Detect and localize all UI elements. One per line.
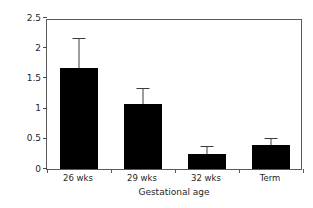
error-bar-line <box>271 139 272 145</box>
error-bar-cap <box>201 146 214 147</box>
x-tick-mark <box>111 169 112 173</box>
plot-area: 00.511.522.5 <box>46 19 302 170</box>
bar <box>188 154 226 169</box>
error-bar-cap <box>73 38 86 39</box>
x-axis-tick-labels: 26 wks29 wks32 wksTerm <box>46 174 302 188</box>
x-axis-title: Gestational age <box>46 188 302 198</box>
x-tick-label: 29 wks <box>110 174 174 183</box>
y-tick-mark <box>43 17 47 18</box>
y-tick-label: 0.5 <box>27 134 41 143</box>
x-tick-label: Term <box>238 174 302 183</box>
y-axis-tick: 2.5 <box>47 17 48 18</box>
error-bar-cap <box>137 88 150 89</box>
bar-group <box>239 20 303 169</box>
error-bar-cap <box>265 138 278 139</box>
error-bar-line <box>143 89 144 103</box>
bar-group <box>47 20 111 169</box>
error-bar-line <box>207 147 208 154</box>
bar <box>252 145 290 169</box>
y-tick-label: 1 <box>35 104 41 113</box>
bar-group <box>111 20 175 169</box>
error-bar-line <box>79 39 80 68</box>
chart-figure: mg kg-1min-1 00.511.522.5 26 wks29 wks32… <box>0 0 313 208</box>
x-tick-mark <box>47 169 48 173</box>
bar <box>124 104 162 169</box>
y-tick-label: 0 <box>35 164 41 173</box>
bar-series <box>47 20 301 169</box>
x-tick-mark <box>175 169 176 173</box>
bar <box>60 68 98 169</box>
y-tick-label: 2 <box>35 43 41 52</box>
bar-group <box>175 20 239 169</box>
x-tick-mark <box>239 169 240 173</box>
x-tick-label: 32 wks <box>174 174 238 183</box>
y-tick-label: 1.5 <box>27 73 41 82</box>
x-tick-label: 26 wks <box>46 174 110 183</box>
x-tick-mark <box>303 169 304 173</box>
y-tick-label: 2.5 <box>27 13 41 22</box>
